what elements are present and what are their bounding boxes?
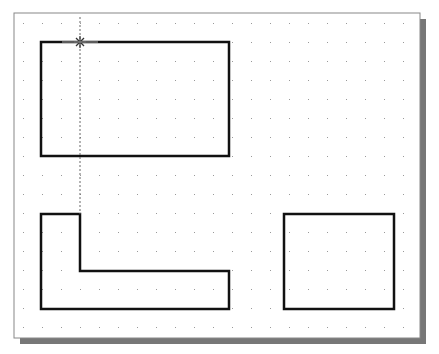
drawing-area-frame bbox=[14, 13, 420, 338]
drawing-canvas[interactable] bbox=[0, 0, 439, 354]
